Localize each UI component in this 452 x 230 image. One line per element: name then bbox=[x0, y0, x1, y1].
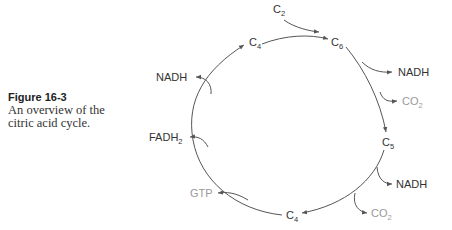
co2-1-arrow bbox=[380, 92, 397, 101]
output-gtp: GTP bbox=[190, 187, 213, 199]
output-nadh-3: NADH bbox=[156, 71, 187, 83]
output-co2-1: CO2 bbox=[402, 95, 423, 110]
arc-c4-to-c6 bbox=[262, 36, 328, 44]
arc-c5-to-c4 bbox=[302, 150, 384, 213]
nadh-2-arrow bbox=[377, 167, 392, 184]
node-c5: C5 bbox=[382, 136, 394, 151]
output-nadh-1: NADH bbox=[398, 66, 429, 78]
node-c4-top: C4 bbox=[249, 36, 261, 51]
output-nadh-2: NADH bbox=[396, 178, 427, 190]
output-fadh2: FADH2 bbox=[149, 131, 183, 146]
citric-acid-cycle-diagram: C2 C6 C5 C4 C4 NADH CO2 NADH CO2 GTP FAD… bbox=[0, 0, 452, 230]
node-c4-bottom: C4 bbox=[286, 209, 298, 224]
co2-2-arrow bbox=[354, 193, 367, 213]
c2-input-arrow bbox=[284, 20, 319, 32]
cycle-ring bbox=[192, 36, 386, 215]
output-co2-2: CO2 bbox=[371, 207, 392, 222]
arc-c6-to-c5 bbox=[346, 47, 386, 132]
node-c2: C2 bbox=[273, 3, 285, 18]
node-c6: C6 bbox=[331, 36, 343, 51]
nadh-3-arrow bbox=[196, 77, 211, 94]
nadh-1-arrow bbox=[362, 62, 392, 72]
